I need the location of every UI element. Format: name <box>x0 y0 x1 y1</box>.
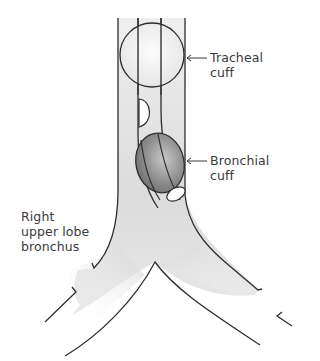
bronchial-cuff-label-line2: cuff <box>210 168 269 183</box>
label-arrows <box>187 55 207 164</box>
right-upper-lobe-label-line1: Right <box>21 209 89 224</box>
right-tracheal-wall <box>92 18 118 268</box>
left-bronchus-stump <box>277 312 292 326</box>
tracheal-cuff-label-line1: Tracheal <box>210 50 263 65</box>
tracheal-cuff-label-line2: cuff <box>210 65 263 80</box>
right-upper-lobe-label-line3: bronchus <box>21 239 89 254</box>
bronchial-cuff-label-line1: Bronchial <box>210 153 269 168</box>
tracheal-cuff-label: Tracheal cuff <box>210 50 263 80</box>
right-upper-lobe-label: Right upper lobe bronchus <box>21 209 89 254</box>
right-upper-lobe-stump <box>45 287 76 322</box>
tracheal-cuff <box>120 23 184 87</box>
bronchial-cuff-label: Bronchial cuff <box>210 153 269 183</box>
right-upper-lobe-label-line2: upper lobe <box>21 224 89 239</box>
